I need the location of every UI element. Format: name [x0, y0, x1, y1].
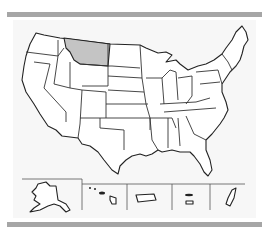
- inset-virgin-islands[interactable]: [185, 194, 193, 204]
- inset-guam[interactable]: [226, 188, 236, 206]
- inset-alaska[interactable]: [30, 182, 70, 212]
- bottom-divider-bar: [7, 222, 262, 227]
- inset-puerto-rico[interactable]: [136, 194, 156, 202]
- inset-hawaii[interactable]: [89, 187, 116, 204]
- us-map: [0, 0, 269, 230]
